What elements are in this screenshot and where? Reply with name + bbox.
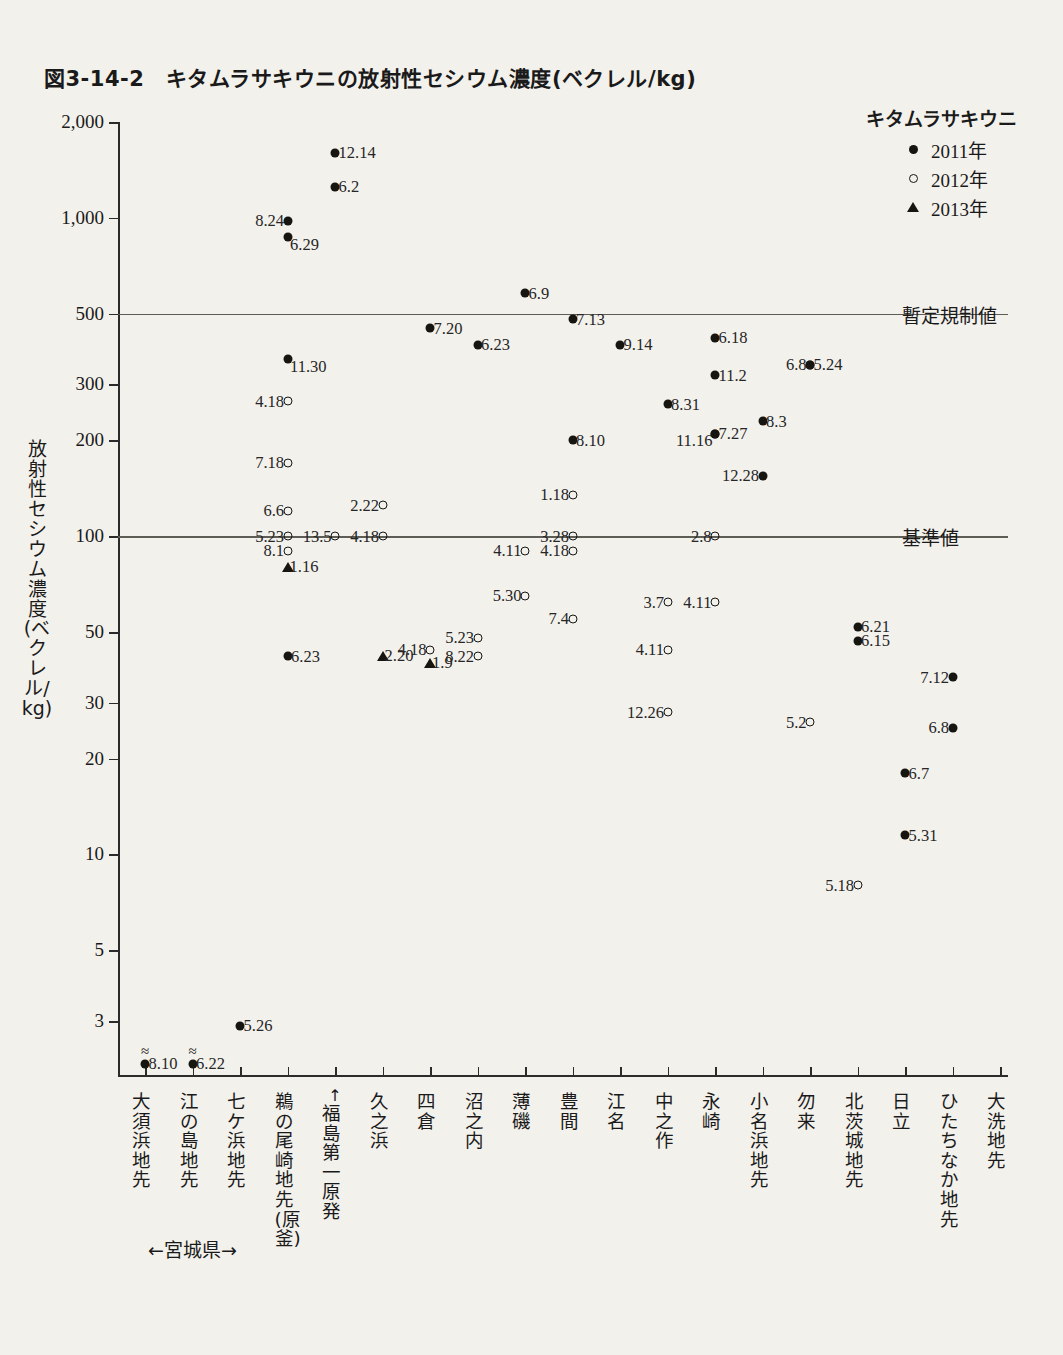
open-circle-icon (711, 532, 720, 541)
data-point: 6.29 (283, 233, 292, 242)
open-circle-icon (378, 501, 387, 510)
data-point: 5.23 (473, 633, 482, 642)
x-tick (525, 1067, 527, 1077)
y-tick-label: 5 (95, 939, 105, 961)
x-tick (953, 1067, 955, 1077)
data-point-label: 8.1 (263, 541, 284, 561)
data-point-label: 8.31 (671, 394, 700, 414)
x-label-3: 鵜の尾崎地先(原釜) (275, 1092, 301, 1249)
data-point-label: 8.24 (255, 211, 284, 231)
data-point-label: 6.15 (861, 631, 890, 651)
x-tick (288, 1067, 290, 1077)
x-tick (620, 1067, 622, 1077)
data-point: 3.28 (568, 532, 577, 541)
data-point: 11.2 (711, 371, 720, 380)
data-point-label: 2.8 (691, 526, 712, 546)
y-tick (109, 384, 118, 386)
data-point: 6.15 (853, 636, 862, 645)
data-point: ≈6.22 (188, 1059, 197, 1068)
data-point: 5.23 (283, 532, 292, 541)
data-point-label: 5.23 (445, 628, 474, 648)
y-tick-label: 200 (76, 429, 105, 451)
filled-circle-icon (806, 360, 815, 369)
data-point-label: 5.18 (825, 875, 854, 895)
data-point: 7.12 (948, 673, 957, 682)
data-point: 7.4 (568, 614, 577, 623)
open-circle-icon (283, 397, 292, 406)
data-point-label: 5.24 (814, 355, 843, 375)
data-point-label: 5.26 (244, 1016, 273, 1036)
data-point: 2.8 (711, 532, 720, 541)
data-point: 11.16 (711, 429, 720, 438)
data-point-label: 1.18 (540, 485, 569, 505)
x-tick (478, 1067, 480, 1077)
y-tick (109, 122, 118, 124)
x-tick (573, 1067, 575, 1077)
open-circle-icon (283, 546, 292, 555)
x-tick (810, 1067, 812, 1077)
data-point: 2.20 (377, 651, 389, 661)
x-label-6: 沼之内 (465, 1092, 491, 1151)
data-point: 6.18 (711, 333, 720, 342)
open-circle-icon (806, 718, 815, 727)
data-point: 12.28 (758, 471, 767, 480)
open-circle-icon (663, 645, 672, 654)
data-point-label: 6.8 (786, 355, 807, 375)
data-point-label: 7.12 (920, 667, 949, 687)
x-tick (240, 1067, 242, 1077)
open-circle-icon (853, 881, 862, 890)
y-tick (109, 854, 118, 856)
data-point-label: 1.9 (432, 653, 453, 673)
plot-area: 2,0001,0005003002001005030201053 ≈8.10≈6… (118, 122, 1008, 1077)
data-point: 12.14 (331, 148, 340, 157)
y-tick (109, 218, 118, 220)
data-point: 1.16 (282, 562, 294, 572)
open-circle-icon (283, 506, 292, 515)
data-point: 6.6 (283, 506, 292, 515)
open-circle-icon (283, 532, 292, 541)
data-point: 5.26 (236, 1021, 245, 1030)
data-point: 4.18 (283, 397, 292, 406)
x-label-7: 薄磯 (512, 1092, 538, 1131)
data-point-label: 3.7 (643, 592, 664, 612)
x-tick (668, 1067, 670, 1077)
x-label-4: 久之浜 (370, 1092, 396, 1151)
x-label-8: 豊間 (560, 1092, 586, 1131)
data-point-label: 11.2 (719, 365, 747, 385)
data-point: 11.30 (283, 355, 292, 364)
data-point: 8.10 (568, 436, 577, 445)
open-circle-icon (663, 598, 672, 607)
y-tick-label: 300 (76, 373, 105, 395)
data-point-label: 4.11 (636, 640, 664, 660)
data-point-label: 1.16 (290, 557, 319, 577)
open-circle-icon (378, 532, 387, 541)
data-point-label: 5.31 (909, 825, 938, 845)
y-tick-label: 30 (85, 692, 104, 714)
data-point-label: 2.22 (350, 495, 379, 515)
y-tick-label: 3 (95, 1010, 105, 1032)
data-point: 6.8 (806, 360, 815, 369)
x-label-14: 北茨城地先 (845, 1092, 871, 1190)
data-point: 13.5 (331, 532, 340, 541)
up-arrow-icon: ↑ (322, 1088, 348, 1104)
data-point: 5.30 (521, 591, 530, 600)
data-point: 6.7 (901, 769, 910, 778)
data-point-label: 9.14 (624, 335, 653, 355)
x-label-2: 七ケ浜地先 (227, 1092, 253, 1190)
data-point-label: 7.20 (434, 318, 463, 338)
data-point-label: 4.11 (683, 592, 711, 612)
open-circle-icon (663, 708, 672, 717)
fukushima-plant-annotation: ↑福島第一原発 (322, 1088, 348, 1222)
data-point-label: 12.28 (722, 466, 759, 486)
data-point: ≈8.10 (141, 1059, 150, 1068)
x-label-1: 江の島地先 (180, 1092, 206, 1190)
data-point-label: 6.6 (263, 501, 284, 521)
data-point: 6.9 (521, 289, 530, 298)
data-point-label: 6.18 (719, 328, 748, 348)
x-tick (193, 1067, 195, 1077)
data-point-label: 12.14 (339, 143, 376, 163)
filled-circle-icon (948, 673, 957, 682)
open-circle-icon (521, 591, 530, 600)
x-label-0: 大須浜地先 (132, 1092, 158, 1190)
data-point-label: 6.23 (481, 335, 510, 355)
